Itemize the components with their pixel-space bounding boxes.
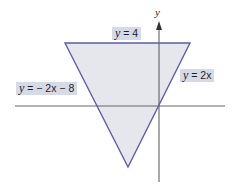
label-equation: = − 2x − 8 bbox=[24, 82, 74, 94]
line-label-top: y = 4 bbox=[112, 27, 141, 40]
label-equation: = 2x bbox=[188, 69, 211, 81]
coordinate-diagram: y y = 4 y = 2x y = − 2x − 8 bbox=[0, 0, 234, 186]
shaded-region bbox=[65, 43, 190, 167]
label-equation: = 4 bbox=[120, 27, 138, 39]
line-label-left: y = − 2x − 8 bbox=[16, 82, 77, 95]
line-label-right: y = 2x bbox=[180, 69, 214, 82]
y-axis-arrow-icon bbox=[156, 21, 162, 30]
y-axis-label: y bbox=[155, 6, 160, 18]
